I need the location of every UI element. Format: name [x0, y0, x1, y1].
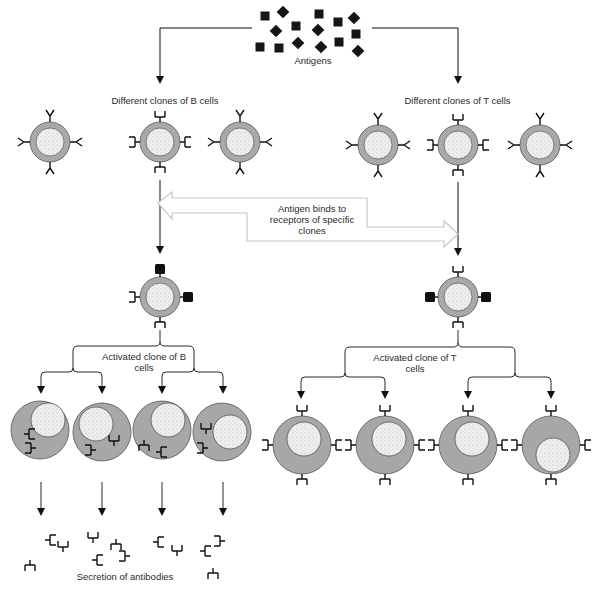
- b-cell-clone-2: [129, 111, 191, 173]
- antibody-icon: [172, 545, 182, 556]
- bracket-receptor-icon: [414, 440, 425, 450]
- y-receptor-icon: [374, 165, 382, 177]
- effector-t-cell-1: [262, 405, 342, 485]
- y-receptor-icon: [18, 138, 30, 146]
- bracket-receptor-icon: [129, 292, 140, 302]
- arrow-to-b-cells: [160, 28, 252, 80]
- bound-antigen-icon: [155, 264, 165, 277]
- clonal-selection-diagram: [0, 0, 613, 598]
- antigen-square-icon: [335, 38, 344, 47]
- nucleus: [146, 128, 174, 156]
- bracket-receptor-icon: [546, 405, 556, 416]
- t-cell-clone-1: [346, 113, 410, 177]
- y-receptor-icon: [260, 138, 272, 146]
- activated-b-cell-body: [129, 264, 193, 328]
- bound-antigen-icon: [478, 292, 491, 302]
- t-cell-clone-2: [427, 114, 489, 176]
- bracket-receptor-icon: [155, 317, 165, 328]
- effector-t-cell-4: [511, 405, 591, 485]
- nucleus: [31, 403, 65, 437]
- antigen-square-icon: [352, 30, 361, 39]
- nucleus: [455, 422, 489, 456]
- bracket-receptor-icon: [453, 266, 463, 277]
- antibody-icon: [153, 537, 164, 547]
- t-cell-clone-3: [508, 113, 572, 177]
- antigen-cluster: [256, 6, 365, 58]
- binding-label: Antigen binds to receptors of specific c…: [268, 203, 356, 236]
- effector-t-cell-group: [262, 405, 591, 485]
- bracket-receptor-icon: [155, 162, 165, 173]
- bracket-receptor-icon: [511, 440, 522, 450]
- y-receptor-icon: [560, 141, 572, 149]
- antigen-diamond-icon: [315, 41, 328, 54]
- y-receptor-icon: [208, 138, 220, 146]
- y-receptor-icon: [536, 165, 544, 177]
- antibody-icon: [214, 536, 225, 546]
- bound-antigen-icon: [180, 292, 193, 302]
- antibody-icon: [111, 539, 121, 550]
- plasma-cell-1: [11, 401, 69, 459]
- nucleus: [536, 438, 570, 472]
- bracket-receptor-icon: [345, 440, 356, 450]
- bracket-receptor-icon: [129, 137, 140, 147]
- nucleus: [36, 128, 64, 156]
- arrow-to-t-cells: [372, 28, 458, 80]
- antibody-icon: [88, 532, 98, 543]
- antibody-icon: [25, 560, 35, 571]
- bracket-receptor-icon: [331, 440, 342, 450]
- activated-t-label: Activated clone of T cells: [372, 352, 458, 374]
- antigens-label: Antigens: [283, 55, 343, 66]
- antigen-diamond-icon: [352, 45, 365, 58]
- activated-t-cell: [425, 266, 491, 328]
- antigen-square-icon: [315, 10, 324, 19]
- y-receptor-icon: [508, 141, 520, 149]
- nucleus: [444, 283, 472, 311]
- b-cell-clone-1: [18, 110, 82, 174]
- bound-antigen-icon: [425, 292, 438, 302]
- bracket-receptor-icon: [380, 405, 390, 416]
- resting-b-cell-group: [18, 110, 272, 174]
- y-receptor-icon: [46, 162, 54, 174]
- antigen-square-icon: [334, 18, 343, 27]
- y-receptor-icon: [46, 110, 54, 122]
- secretion-label: Secretion of antibodies: [60, 571, 190, 582]
- resting-t-cell-group: [346, 113, 572, 177]
- activated-b-label: Activated clone of B cells: [101, 351, 187, 373]
- effector-t-cell-2: [345, 405, 425, 485]
- bracket-receptor-icon: [580, 440, 591, 450]
- b-clones-label: Different clones of B cells: [95, 95, 235, 106]
- nucleus: [444, 131, 472, 159]
- nucleus: [151, 403, 185, 437]
- bracket-receptor-icon: [428, 440, 439, 450]
- bracket-receptor-icon: [463, 405, 473, 416]
- antibody-icon: [58, 541, 68, 552]
- y-receptor-icon: [536, 113, 544, 125]
- y-receptor-icon: [346, 141, 358, 149]
- antigen-flow-arrows: [160, 28, 458, 80]
- activated-b-cell: [129, 264, 193, 328]
- y-receptor-icon: [398, 141, 410, 149]
- bracket-receptor-icon: [427, 140, 438, 150]
- bracket-receptor-icon: [297, 474, 307, 485]
- y-receptor-icon: [374, 113, 382, 125]
- antibody-icon: [45, 535, 56, 545]
- nucleus: [79, 407, 113, 441]
- b-cell-clone-3: [208, 110, 272, 174]
- bracket-receptor-icon: [453, 317, 463, 328]
- antibody-icon: [208, 568, 218, 579]
- y-receptor-icon: [236, 110, 244, 122]
- activated-t-cell-body: [425, 266, 491, 328]
- nucleus: [146, 283, 174, 311]
- secretion-arrows: [41, 482, 223, 512]
- antigen-diamond-icon: [277, 6, 290, 19]
- antigen-square-icon: [275, 44, 284, 53]
- antigen-square-icon: [292, 22, 301, 31]
- bracket-receptor-icon: [497, 440, 508, 450]
- y-receptor-icon: [70, 138, 82, 146]
- t-clones-label: Different clones of T cells: [385, 95, 530, 106]
- bracket-receptor-icon: [546, 474, 556, 485]
- plasma-cell-2: [73, 403, 131, 461]
- antigen-diamond-icon: [292, 37, 305, 50]
- bracket-receptor-icon: [380, 474, 390, 485]
- bracket-receptor-icon: [453, 165, 463, 176]
